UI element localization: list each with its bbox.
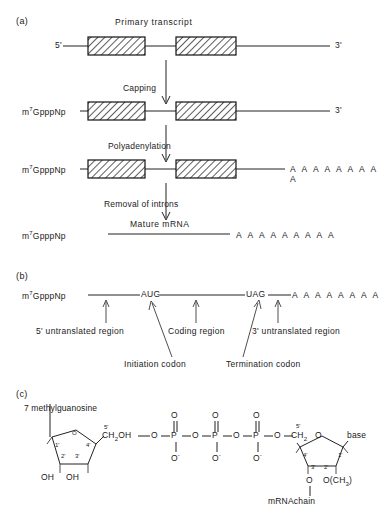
panel-c-graphic — [47, 404, 348, 496]
stop-codon-label: UAG — [246, 290, 266, 299]
phosphoryl-o-2: O — [212, 411, 219, 420]
cap-rest: GpppNp — [33, 107, 66, 117]
ominus-o: O — [212, 453, 219, 463]
phosphate-ominus-2: O- — [212, 452, 221, 462]
phosphoryl-o-1: O — [171, 411, 178, 420]
bridge-o-1: O — [151, 431, 158, 440]
annot-coding-region: Coding region — [168, 327, 225, 336]
row1-three-prime-label: 3' — [335, 41, 342, 50]
o-methyl-group: O(CH3) — [323, 476, 352, 487]
omethyl-close: ) — [349, 475, 352, 485]
panel-c-title: 7 methylguanosine — [24, 404, 97, 413]
annot-initiation-codon: Initiation codon — [124, 360, 186, 369]
panel-a-row2-graphic — [80, 102, 330, 120]
left-ring-pos1: 1' — [55, 442, 59, 448]
mature-mrna-label: Mature mRNA — [130, 220, 189, 229]
right-ring-pos1: 1' — [338, 452, 342, 458]
row2-three-prime-label: 3' — [335, 106, 342, 115]
left-ring-o: O — [72, 430, 77, 436]
left-ring-oh-3prime: OH — [66, 473, 79, 482]
left-ring-pos4: 4' — [86, 442, 90, 448]
ominus-o: O — [253, 453, 260, 463]
ch2oh-group: CH2OH — [102, 431, 131, 442]
arrow-capping — [162, 60, 170, 104]
left-ring-pos3: 3' — [75, 453, 79, 459]
right-ring-o-link: O — [306, 476, 313, 485]
ominus-sign: - — [219, 452, 221, 458]
panel-b-label: (b) — [16, 271, 28, 281]
bridge-o-3: O — [233, 431, 240, 440]
phosphoryl-o-3: O — [253, 411, 260, 420]
panel-b-cap-label: m7GpppNp — [22, 290, 66, 300]
ominus-sign: - — [260, 452, 262, 458]
row3-cap-label: m7GpppNp — [22, 164, 66, 174]
left-ring-oh-2prime: OH — [41, 473, 54, 482]
phosphorus-1: P — [171, 431, 177, 440]
cap-rest: GpppNp — [33, 231, 66, 241]
cap-rest: GpppNp — [33, 165, 66, 175]
row4-cap-label: m7GpppNp — [22, 230, 66, 240]
start-codon-label: AUG — [141, 290, 161, 299]
panel-a-label: (a) — [16, 16, 28, 26]
right-ch2-group: CH2 — [291, 431, 307, 442]
row2-cap-label: m7GpppNp — [22, 106, 66, 116]
phosphate-ominus-1: O- — [171, 452, 180, 462]
phosphorus-2: P — [212, 431, 218, 440]
left-ring-pos2: 2' — [61, 453, 65, 459]
bridge-o-4: O — [274, 431, 281, 440]
ch2oh-c: CH — [102, 430, 115, 440]
row4-poly-a-tail: A A A A A A A A A — [236, 230, 336, 240]
ominus-o: O — [171, 453, 178, 463]
ominus-sign: - — [178, 452, 180, 458]
mrna-chain-label: mRNAchain — [268, 497, 315, 506]
right-ring-pos4: 4' — [303, 452, 307, 458]
panel-a-title: Primary transcript — [115, 18, 192, 27]
annot-5utr: 5' untranslated region — [36, 327, 124, 336]
panel-b-poly-a-tail: A A A A A A A A — [292, 290, 380, 300]
row3-poly-a-tail: A A A A A A A A A — [290, 164, 388, 184]
panel-a-row3-graphic — [80, 160, 285, 178]
bridge-o-2: O — [192, 431, 199, 440]
phosphorus-3: P — [253, 431, 259, 440]
ch2oh-oh: OH — [118, 430, 131, 440]
step-removal-of-introns-label: Removal of introns — [104, 200, 178, 209]
step-capping-label: Capping — [123, 84, 156, 93]
step-polyadenylation-label: Polyadenylation — [108, 142, 171, 151]
row1-five-prime-label: 5' — [55, 41, 62, 50]
omethyl-o: O(CH — [323, 475, 346, 485]
right-ring-pos3: 3' — [311, 464, 315, 470]
right-ring-o: O — [315, 431, 322, 440]
phosphate-ominus-3: O- — [253, 452, 262, 462]
cap-rest: GpppNp — [33, 291, 66, 301]
ch2-sub: 2 — [304, 436, 308, 442]
panel-a-row1-graphic — [63, 37, 330, 55]
ch2-c: CH — [291, 430, 304, 440]
annot-termination-codon: Termination codon — [226, 360, 301, 369]
panel-c-label: (c) — [16, 389, 28, 399]
right-ring-pos5: 5' — [296, 423, 300, 429]
annot-3utr: 3' untranslated region — [252, 327, 340, 336]
base-label: base — [347, 431, 366, 440]
right-ring-pos2: 2' — [324, 464, 328, 470]
